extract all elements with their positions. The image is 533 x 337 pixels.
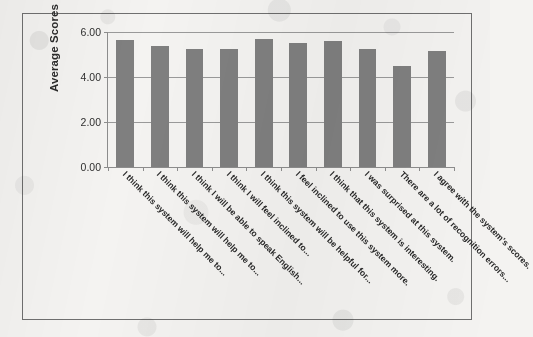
- y-tick-label: 2.00: [67, 116, 101, 128]
- bar: [289, 43, 307, 167]
- bar: [220, 49, 238, 167]
- bar-chart: Average Scores 6.004.002.000.00 I think …: [23, 14, 471, 319]
- y-axis-title: Average Scores: [48, 0, 60, 123]
- plot-area: [107, 32, 454, 168]
- figure-frame: Average Scores 6.004.002.000.00 I think …: [22, 13, 472, 320]
- y-axis-tick-labels: 6.004.002.000.00: [67, 14, 101, 321]
- bar-series: [108, 32, 454, 167]
- bar: [359, 49, 377, 167]
- bar: [324, 41, 342, 167]
- bar: [255, 39, 273, 167]
- y-tick-label: 4.00: [67, 71, 101, 83]
- x-axis-category-labels: I think this system will help me to...I …: [107, 169, 453, 319]
- y-tick-label: 6.00: [67, 26, 101, 38]
- bar: [116, 40, 134, 167]
- x-axis-tick: [454, 167, 455, 171]
- bar: [186, 49, 204, 167]
- bar: [393, 66, 411, 167]
- bar: [151, 46, 169, 168]
- bar: [428, 51, 446, 167]
- y-tick-label: 0.00: [67, 161, 101, 173]
